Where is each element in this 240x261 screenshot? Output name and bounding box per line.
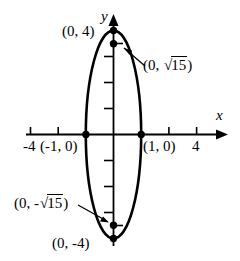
radical-lower: √15 <box>39 196 63 211</box>
radical-upper: √15 <box>163 58 187 73</box>
x-tick-label-pos4: 4 <box>192 139 200 154</box>
point-bottom-vertex <box>110 235 117 242</box>
label-lower-focus-suffix: ) <box>63 195 68 211</box>
label-bottom-vertex: (0, -4) <box>52 236 90 251</box>
point-upper-focus <box>110 40 117 47</box>
label-upper-focus: (0, √15) <box>143 58 192 73</box>
label-lower-focus-prefix: (0, - <box>14 195 39 211</box>
point-top-vertex <box>110 27 117 34</box>
y-axis-label: y <box>101 9 108 24</box>
coordinate-plane <box>0 0 240 261</box>
label-upper-focus-suffix: ) <box>187 57 192 73</box>
radicand-lower: 15 <box>47 194 63 211</box>
x-axis-arrowhead <box>216 130 228 140</box>
y-axis-arrowhead <box>109 14 119 26</box>
radicand-upper: 15 <box>171 56 187 73</box>
point-lower-focus <box>110 222 117 229</box>
label-left-vertex: (-1, 0) <box>40 139 78 154</box>
x-tick-label-neg4: -4 <box>23 139 36 154</box>
label-right-vertex: (1, 0) <box>143 139 176 154</box>
label-lower-focus: (0, -√15) <box>14 196 68 211</box>
label-top-vertex: (0, 4) <box>62 24 95 39</box>
ellipse-graph-figure: x y -4 4 (0, 4) (0, √15) (-1, 0) (1, 0) … <box>0 0 240 261</box>
lower-focus-leader-line <box>78 205 105 220</box>
point-left-vertex <box>82 131 89 138</box>
label-upper-focus-prefix: (0, <box>143 57 163 73</box>
x-axis-label: x <box>216 108 223 123</box>
